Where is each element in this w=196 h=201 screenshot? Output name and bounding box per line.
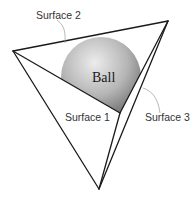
surface-3-leader	[143, 88, 160, 113]
ball-label: Ball	[92, 70, 115, 85]
ball-in-corner-diagram: Ball Surface 2 Surface 1 Surface 3	[0, 0, 196, 201]
inner-to-bottom-edge	[99, 113, 120, 189]
surface-2-leader	[57, 20, 65, 43]
ball: Ball	[61, 37, 141, 117]
surface-3-label: Surface 3	[145, 111, 190, 123]
surface-2-label: Surface 2	[36, 9, 81, 21]
surface-1-label: Surface 1	[65, 111, 110, 123]
